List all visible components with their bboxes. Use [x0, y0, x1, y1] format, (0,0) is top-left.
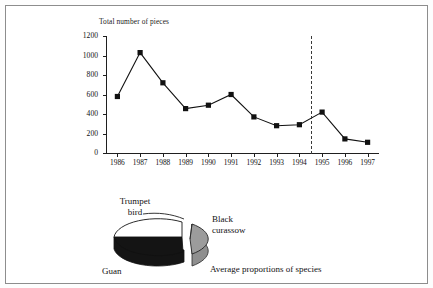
pie-label-black-curassow: Black curassow — [212, 214, 282, 235]
pie-label-guan: Guan — [102, 266, 122, 277]
figure-frame: Total number of pieces 02004006008001000… — [5, 5, 428, 284]
pie-label-trumpet-bird-line1: Trumpet — [120, 196, 151, 206]
pie-slice-trumpet-bird — [114, 219, 182, 237]
figure-page: Total number of pieces 02004006008001000… — [0, 0, 433, 288]
pie-label-black-curassow-line2: curassow — [212, 225, 246, 235]
pie-label-black-curassow-line1: Black — [212, 214, 233, 224]
pie-label-trumpet-bird-line2: bird — [128, 207, 143, 217]
pie-chart — [6, 6, 433, 288]
pie-caption: Average proportions of species — [210, 264, 322, 274]
pie-label-trumpet-bird: Trumpet bird — [104, 196, 166, 217]
